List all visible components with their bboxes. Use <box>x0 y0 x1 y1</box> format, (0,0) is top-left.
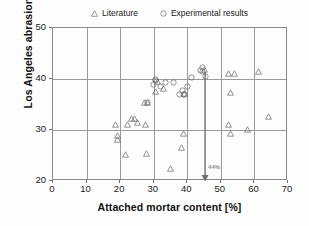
legend-item-literature: Literature <box>91 9 138 18</box>
x-axis-tick-label: 40 <box>174 183 198 194</box>
annotation-arrow-icon <box>53 28 288 181</box>
annotation-label-44-percent: 44% <box>208 164 220 170</box>
y-axis-tick-label: 40 <box>22 72 46 83</box>
x-axis-tick-label: 60 <box>241 183 265 194</box>
y-axis-tick <box>49 180 52 181</box>
y-axis-title: Los Angeles abrasion <box>22 0 34 123</box>
y-axis-tick-label: 20 <box>22 174 46 185</box>
legend-label-literature: Literature <box>102 9 138 18</box>
x-axis-tick-label: 30 <box>141 183 165 194</box>
x-axis-tick-label: 10 <box>74 183 98 194</box>
legend-item-experimental-results: Experimental results <box>160 9 248 18</box>
y-axis-tick-label: 50 <box>22 21 46 32</box>
x-axis-title: Attached mortar content [%] <box>52 201 287 213</box>
chart-legend: Literature Experimental results <box>52 3 287 23</box>
legend-label-experimental-results: Experimental results <box>171 9 248 18</box>
circle-marker-icon <box>160 10 167 17</box>
x-axis-tick-label: 50 <box>208 183 232 194</box>
triangle-marker-icon <box>91 10 98 17</box>
x-axis-tick-label: 70 <box>275 183 299 194</box>
plot-area: 44% <box>52 27 287 180</box>
scatter-chart-figure: Literature Experimental results Los Ange… <box>0 0 309 226</box>
y-axis-tick-label: 30 <box>22 123 46 134</box>
x-axis-tick-label: 20 <box>107 183 131 194</box>
